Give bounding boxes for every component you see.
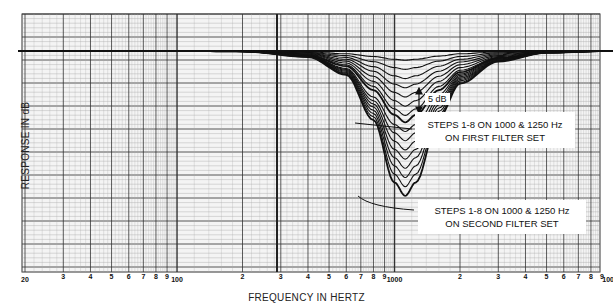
- x-tick-label: 3: [279, 273, 283, 280]
- x-tick-label: 5: [327, 273, 331, 280]
- x-tick-label: 6: [127, 273, 131, 280]
- x-tick-label: 7: [141, 273, 145, 280]
- x-tick-label: 20: [21, 276, 29, 283]
- x-tick-label: 8: [154, 273, 158, 280]
- x-tick-label: 9: [165, 273, 169, 280]
- x-tick-label: 4: [306, 273, 310, 280]
- x-tick-label: 8: [371, 273, 375, 280]
- x-tick-label: 2: [458, 273, 462, 280]
- x-tick-label: 1000: [387, 276, 403, 283]
- response-chart: [0, 0, 613, 308]
- x-tick-label: 4: [89, 273, 93, 280]
- 5db-scale-label: 5 dB: [425, 93, 450, 105]
- x-tick-label: 4: [524, 273, 528, 280]
- x-tick-label: 10000: [602, 276, 613, 283]
- x-tick-label: 3: [496, 273, 500, 280]
- x-tick-label: 100: [171, 276, 183, 283]
- x-tick-label: 8: [589, 273, 593, 280]
- x-tick-label: 7: [359, 273, 363, 280]
- second-filter-line1: STEPS 1-8 ON 1000 & 1250 Hz: [418, 204, 586, 217]
- x-tick-label: 6: [562, 273, 566, 280]
- y-axis-label: RESPONSE IN dB: [20, 91, 31, 201]
- x-tick-label: 6: [344, 273, 348, 280]
- first-filter-line1: STEPS 1-8 ON 1000 & 1250 Hz: [415, 118, 575, 131]
- x-tick-label: 3: [61, 273, 65, 280]
- second-filter-line2: ON SECOND FILTER SET: [418, 217, 586, 230]
- x-axis-label: FREQUENCY IN HERTZ: [0, 292, 613, 303]
- second-filter-set-annotation: STEPS 1-8 ON 1000 & 1250 Hz ON SECOND FI…: [418, 200, 586, 234]
- x-tick-label: 7: [576, 273, 580, 280]
- x-tick-label: 5: [110, 273, 114, 280]
- first-filter-line2: ON FIRST FILTER SET: [415, 131, 575, 144]
- first-filter-set-annotation: STEPS 1-8 ON 1000 & 1250 Hz ON FIRST FIL…: [415, 112, 575, 148]
- x-tick-label: 5: [545, 273, 549, 280]
- x-tick-label: 2: [241, 273, 245, 280]
